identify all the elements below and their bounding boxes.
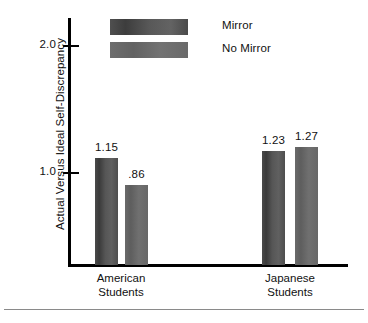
bar-fill: [262, 151, 285, 265]
bar-value-label: 1.15: [95, 141, 118, 153]
bar-value-label: .86: [128, 168, 145, 180]
bar-fill: [95, 158, 118, 265]
chart-figure: 2.0 1.0 Actual Versus Ideal Self-Discrep…: [0, 0, 368, 323]
y-tick-label-1: 1.0: [24, 165, 56, 177]
category-label-line-1: Japanese: [235, 272, 345, 286]
bar-japanese-no-mirror: 1.27: [295, 147, 318, 265]
bar-value-label: 1.23: [262, 134, 285, 146]
y-axis-title: Actual Versus Ideal Self-Discrepancy: [54, 9, 66, 259]
bar-american-mirror: 1.15: [95, 158, 118, 265]
legend-label-no-mirror: No Mirror: [222, 42, 271, 54]
category-label-line-2: Students: [66, 286, 176, 300]
legend-swatch-mirror: [110, 19, 188, 35]
plot-area: 2.0 1.0 Actual Versus Ideal Self-Discrep…: [0, 0, 368, 323]
bar-american-no-mirror: .86: [125, 185, 148, 265]
bar-fill: [125, 185, 148, 265]
category-label-line-1: American: [66, 272, 176, 286]
legend-swatch-no-mirror: [110, 42, 188, 58]
legend-label-mirror: Mirror: [222, 19, 253, 31]
category-label-japanese: Japanese Students: [235, 272, 345, 299]
y-axis-line: [68, 18, 71, 267]
y-tick-label-2: 2.0: [24, 38, 56, 50]
figure-bottom-rule: [4, 309, 364, 310]
bar-fill: [295, 147, 318, 265]
bar-japanese-mirror: 1.23: [262, 151, 285, 265]
bar-value-label: 1.27: [295, 130, 318, 142]
category-label-american: American Students: [66, 272, 176, 299]
category-label-line-2: Students: [235, 286, 345, 300]
